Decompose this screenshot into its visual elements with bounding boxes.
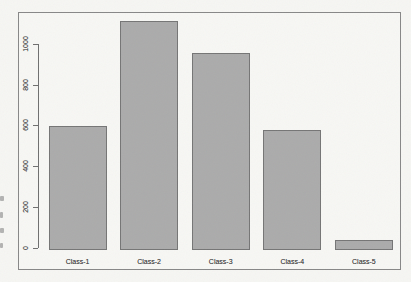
y-axis-tick [33, 125, 38, 126]
y-axis-tick-label: 600 [22, 120, 29, 132]
y-axis-tick [33, 248, 38, 249]
bar-class-3 [192, 53, 250, 250]
y-axis-tick [33, 85, 38, 86]
cropped-axis-label-fragment [0, 228, 4, 233]
bar-class-1 [49, 126, 107, 250]
x-axis-category-label: Class-4 [280, 258, 304, 265]
scanned-page: 02004006008001000Class-1Class-2Class-3Cl… [0, 0, 411, 282]
y-axis-tick [33, 44, 38, 45]
y-axis-tick-label: 1000 [22, 36, 29, 52]
cropped-axis-label-fragment [0, 196, 4, 201]
y-axis-line [38, 44, 39, 248]
bar-class-5 [335, 240, 393, 250]
y-axis-tick-label: 200 [22, 201, 29, 213]
x-axis-category-label: Class-1 [66, 258, 90, 265]
x-axis-category-label: Class-5 [352, 258, 376, 265]
bar-class-4 [263, 130, 321, 250]
y-axis-tick-label: 0 [22, 246, 29, 250]
x-axis-category-label: Class-2 [137, 258, 161, 265]
y-axis-tick [33, 207, 38, 208]
bar-class-2 [120, 21, 178, 251]
cropped-axis-label-fragment [0, 212, 3, 218]
y-axis-tick-label: 800 [22, 79, 29, 91]
y-axis-tick [33, 166, 38, 167]
cropped-axis-label-fragment [0, 243, 3, 248]
x-axis-category-label: Class-3 [209, 258, 233, 265]
y-axis-tick-label: 400 [22, 160, 29, 172]
